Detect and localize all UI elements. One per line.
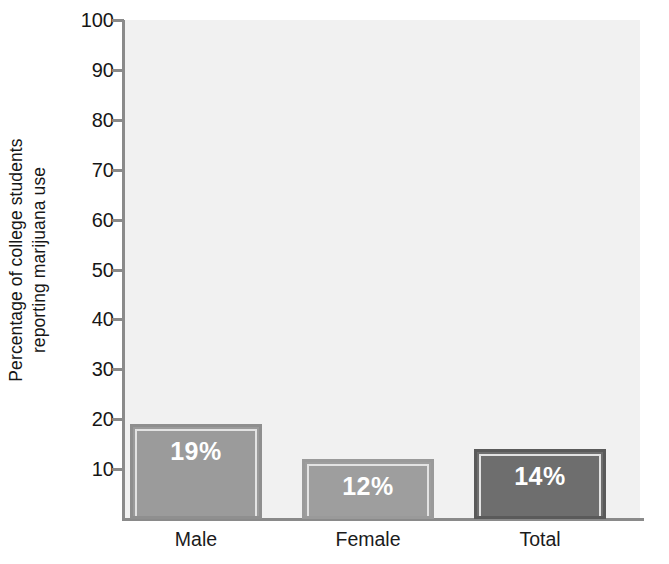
x-axis-label-total: Total: [519, 524, 560, 554]
x-axis-category-labels: MaleFemaleTotal: [124, 524, 640, 558]
y-axis-tick-labels: 102030405060708090100: [56, 0, 114, 540]
y-axis-tick-mark: [112, 468, 124, 471]
y-axis-tick-label: 40: [56, 309, 114, 329]
y-axis-tick-label: 90: [56, 60, 114, 80]
bars-layer: 19%12%14%: [124, 20, 640, 519]
y-axis-tick-label: 30: [56, 359, 114, 379]
y-axis-tick-mark: [112, 368, 124, 371]
bar-value-label: 12%: [342, 474, 394, 499]
y-axis-title-line-2: reporting marijuana use: [28, 138, 51, 381]
y-axis-tick-mark: [112, 219, 124, 222]
y-axis-tick-mark: [112, 69, 124, 72]
bar-female[interactable]: 12%: [302, 459, 434, 519]
y-axis-tick-label: 100: [56, 10, 114, 30]
y-axis-tick-mark: [112, 318, 124, 321]
y-axis-title-line-1: Percentage of college students: [5, 138, 28, 381]
bar-total[interactable]: 14%: [474, 449, 606, 519]
y-axis-tick-mark: [112, 418, 124, 421]
x-axis-label-male: Male: [175, 524, 217, 554]
bar-chart: Percentage of college students reporting…: [0, 0, 669, 564]
bar-male[interactable]: 19%: [130, 424, 262, 519]
y-axis-tick-label: 70: [56, 160, 114, 180]
x-axis-label-female: Female: [335, 524, 400, 554]
bar-value-label: 14%: [514, 464, 566, 489]
y-axis-tick-label: 50: [56, 260, 114, 280]
y-axis-tick-label: 20: [56, 409, 114, 429]
y-axis-tick-mark: [112, 19, 124, 22]
y-axis-tick-mark: [112, 169, 124, 172]
y-axis-tick-label: 10: [56, 459, 114, 479]
bar-value-label: 19%: [170, 439, 222, 464]
y-axis-tick-label: 60: [56, 210, 114, 230]
y-axis-tick-mark: [112, 269, 124, 272]
y-axis-tick-mark: [112, 119, 124, 122]
y-axis-title: Percentage of college students reporting…: [0, 0, 56, 520]
y-axis-tick-label: 80: [56, 110, 114, 130]
